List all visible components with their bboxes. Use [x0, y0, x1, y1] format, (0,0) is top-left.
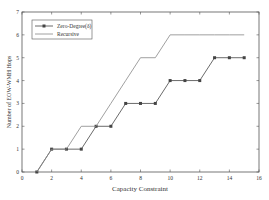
data-point-marker [139, 102, 142, 105]
x-tick-label: 12 [197, 175, 203, 181]
y-axis-label: Number of EOW-WMH Hops [6, 55, 12, 128]
legend-label: Zero-Degree(δ) [57, 23, 92, 30]
y-tick-label: 7 [16, 9, 19, 15]
data-point-marker [169, 79, 172, 82]
y-tick-label: 3 [16, 100, 19, 106]
data-point-marker [198, 79, 201, 82]
data-point-marker [109, 125, 112, 128]
legend-marker [43, 25, 46, 28]
data-point-marker [154, 102, 157, 105]
y-tick-label: 2 [16, 123, 19, 129]
y-tick-label: 0 [16, 169, 19, 175]
plot-series [35, 35, 245, 174]
x-tick-label: 0 [21, 175, 24, 181]
x-tick-label: 8 [139, 175, 142, 181]
data-point-marker [213, 56, 216, 59]
data-point-marker [183, 79, 186, 82]
x-tick-label: 4 [80, 175, 83, 181]
data-point-marker [124, 102, 127, 105]
y-tick-label: 4 [16, 78, 19, 84]
legend-label: Recursive [57, 31, 80, 37]
line-chart: 024681012141601234567 Zero-Degree(δ)Recu… [0, 0, 269, 200]
x-tick-label: 6 [110, 175, 113, 181]
series-line [37, 58, 244, 172]
x-tick-label: 16 [256, 175, 262, 181]
data-point-marker [243, 56, 246, 59]
x-tick-label: 14 [227, 175, 233, 181]
data-point-marker [228, 56, 231, 59]
y-tick-label: 1 [16, 146, 19, 152]
legend: Zero-Degree(δ)Recursive [32, 20, 92, 39]
chart-svg: 024681012141601234567 Zero-Degree(δ)Recu… [0, 0, 269, 200]
x-tick-label: 2 [50, 175, 53, 181]
x-tick-label: 10 [167, 175, 173, 181]
x-axis-label: Capacity Constraint [112, 185, 168, 193]
y-tick-label: 5 [16, 55, 19, 61]
data-point-marker [80, 148, 83, 151]
y-tick-label: 6 [16, 32, 19, 38]
